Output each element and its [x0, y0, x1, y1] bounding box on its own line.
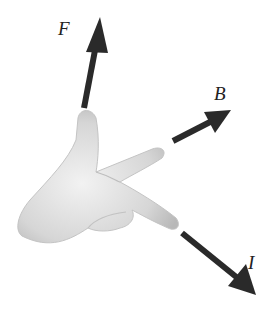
current-arrow-icon	[182, 233, 256, 295]
right-hand-rule-diagram: F B I	[0, 0, 273, 317]
diagram-canvas	[0, 0, 273, 317]
force-label: F	[58, 18, 70, 40]
field-arrow-icon	[173, 110, 231, 141]
force-arrow-icon	[84, 17, 108, 108]
current-label: I	[248, 252, 254, 274]
hand-icon	[18, 111, 179, 243]
field-label: B	[214, 83, 226, 105]
